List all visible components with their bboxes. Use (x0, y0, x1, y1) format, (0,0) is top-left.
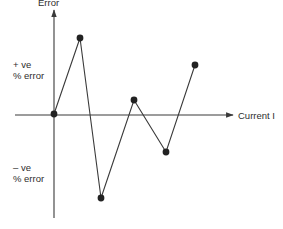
data-point (51, 111, 58, 118)
positive-error-line1: + ve (13, 59, 44, 70)
data-point (131, 97, 138, 104)
positive-error-line2: % error (13, 70, 44, 81)
negative-error-label: – ve % error (13, 162, 44, 184)
negative-error-line2: % error (13, 173, 44, 184)
x-axis-title: Current I (238, 110, 275, 121)
data-point (98, 195, 105, 202)
data-point (77, 35, 84, 42)
positive-error-label: + ve % error (13, 59, 44, 81)
data-point (163, 149, 170, 156)
error-curve (54, 38, 195, 198)
negative-error-line1: – ve (13, 162, 44, 173)
y-axis-title: Error (38, 0, 59, 8)
data-point (192, 62, 199, 69)
